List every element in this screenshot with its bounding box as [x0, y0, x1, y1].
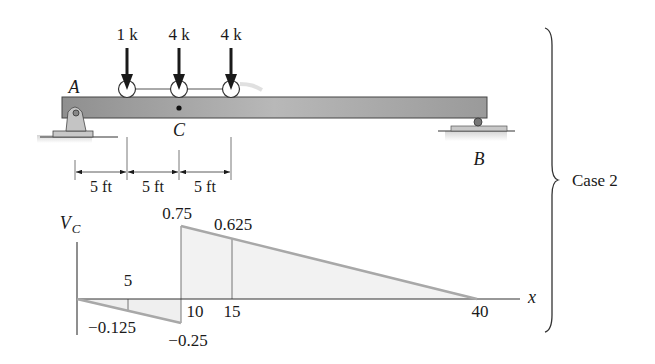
point-c-marker	[176, 105, 181, 110]
dimension-label-2: 5 ft	[142, 178, 164, 195]
point-c-label: C	[173, 120, 186, 140]
value-label-neg-0-25: −0.25	[168, 331, 207, 350]
influence-line-figure: 1 k 4 k 4 k C A B 5 ft 5 ft 5 ft	[0, 0, 655, 364]
tick-label-15: 15	[224, 302, 241, 321]
value-label-0-75: 0.75	[162, 204, 192, 223]
dimension-label-1: 5 ft	[90, 178, 112, 195]
tick-label-10: 10	[187, 302, 204, 321]
dimension-lines	[75, 137, 231, 180]
load-label-1: 1 k	[116, 25, 138, 44]
load-label-2: 4 k	[168, 25, 190, 44]
support-b-label: B	[474, 149, 485, 169]
value-label-0-625: 0.625	[214, 215, 252, 234]
case-label: Case 2	[572, 171, 618, 190]
load-label-3: 4 k	[220, 25, 242, 44]
roller-support-b	[438, 118, 515, 141]
beam	[62, 97, 487, 118]
support-a-label: A	[68, 77, 81, 97]
tick-label-40: 40	[472, 302, 489, 321]
curly-brace	[545, 28, 558, 332]
influence-line-chart	[77, 226, 520, 335]
value-label-neg-0-125: −0.125	[88, 318, 136, 337]
dimension-label-3: 5 ft	[194, 178, 216, 195]
tick-label-5: 5	[124, 271, 133, 290]
load-carriage	[119, 81, 263, 98]
x-axis-label: x	[527, 287, 536, 307]
y-axis-label: VC	[60, 213, 81, 236]
